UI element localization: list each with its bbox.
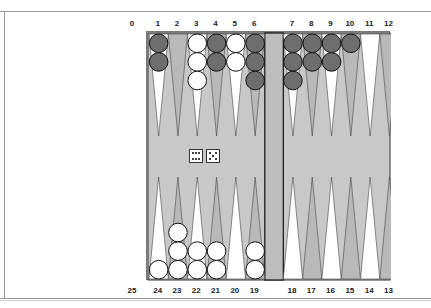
dark-checker[interactable] <box>284 34 303 53</box>
die-pip <box>192 158 194 160</box>
left-divider <box>4 11 5 299</box>
bar[interactable] <box>265 33 284 280</box>
light-checker[interactable] <box>169 223 188 242</box>
bottom-divider-2 <box>0 300 431 301</box>
die-pip <box>212 155 214 157</box>
light-checker[interactable] <box>169 260 188 279</box>
point-label-4: 4 <box>206 19 226 29</box>
point-label-10: 10 <box>340 19 360 29</box>
point-label-24: 24 <box>148 286 168 296</box>
light-checker[interactable] <box>207 260 226 279</box>
light-checker[interactable] <box>188 242 207 261</box>
die-pip <box>195 158 197 160</box>
light-checker[interactable] <box>188 34 207 53</box>
point-label-19: 19 <box>244 286 264 296</box>
point-label-3: 3 <box>186 19 206 29</box>
dark-checker[interactable] <box>207 53 226 72</box>
die-pip <box>198 158 200 160</box>
point-label-11: 11 <box>359 19 379 29</box>
point-label-15: 15 <box>340 286 360 296</box>
light-checker[interactable] <box>188 71 207 90</box>
die-2[interactable] <box>206 149 220 163</box>
point-label-14: 14 <box>359 286 379 296</box>
bottom-divider <box>0 298 431 299</box>
point-label-12: 12 <box>378 19 398 29</box>
dark-checker[interactable] <box>246 71 265 90</box>
die-1[interactable] <box>189 149 203 163</box>
point-label-20: 20 <box>225 286 245 296</box>
die-pip <box>215 152 217 154</box>
die-pip <box>192 152 194 154</box>
dark-checker[interactable] <box>322 53 341 72</box>
die-pip <box>198 152 200 154</box>
light-checker[interactable] <box>246 260 265 279</box>
home-label-top: 0 <box>122 19 142 29</box>
dark-checker[interactable] <box>322 34 341 53</box>
die-pip <box>195 152 197 154</box>
dark-checker[interactable] <box>246 53 265 72</box>
die-pip <box>209 158 211 160</box>
point-label-8: 8 <box>301 19 321 29</box>
point-label-17: 17 <box>301 286 321 296</box>
light-checker[interactable] <box>188 260 207 279</box>
point-label-18: 18 <box>282 286 302 296</box>
dark-checker[interactable] <box>284 53 303 72</box>
point-label-13: 13 <box>378 286 398 296</box>
point-label-16: 16 <box>321 286 341 296</box>
top-divider <box>0 11 431 12</box>
board-surface[interactable] <box>147 32 391 281</box>
point-label-22: 22 <box>186 286 206 296</box>
dark-checker[interactable] <box>284 71 303 90</box>
point-label-6: 6 <box>244 19 264 29</box>
point-label-23: 23 <box>167 286 187 296</box>
die-pip <box>215 158 217 160</box>
point-label-7: 7 <box>282 19 302 29</box>
light-checker[interactable] <box>246 242 265 261</box>
dark-checker[interactable] <box>342 34 361 53</box>
point-label-21: 21 <box>206 286 226 296</box>
light-checker[interactable] <box>227 53 246 72</box>
dark-checker[interactable] <box>303 53 322 72</box>
light-checker[interactable] <box>149 260 168 279</box>
backgammon-board <box>146 31 390 280</box>
dark-checker[interactable] <box>149 34 168 53</box>
dark-checker[interactable] <box>246 34 265 53</box>
light-checker[interactable] <box>169 242 188 261</box>
point-label-2: 2 <box>167 19 187 29</box>
light-checker[interactable] <box>227 34 246 53</box>
dark-checker[interactable] <box>207 34 226 53</box>
point-label-1: 1 <box>148 19 168 29</box>
dark-checker[interactable] <box>303 34 322 53</box>
light-checker[interactable] <box>207 242 226 261</box>
dark-checker[interactable] <box>149 53 168 72</box>
point-label-5: 5 <box>225 19 245 29</box>
die-pip <box>209 152 211 154</box>
light-checker[interactable] <box>188 53 207 72</box>
home-label-bottom: 25 <box>122 286 142 296</box>
point-label-9: 9 <box>321 19 341 29</box>
